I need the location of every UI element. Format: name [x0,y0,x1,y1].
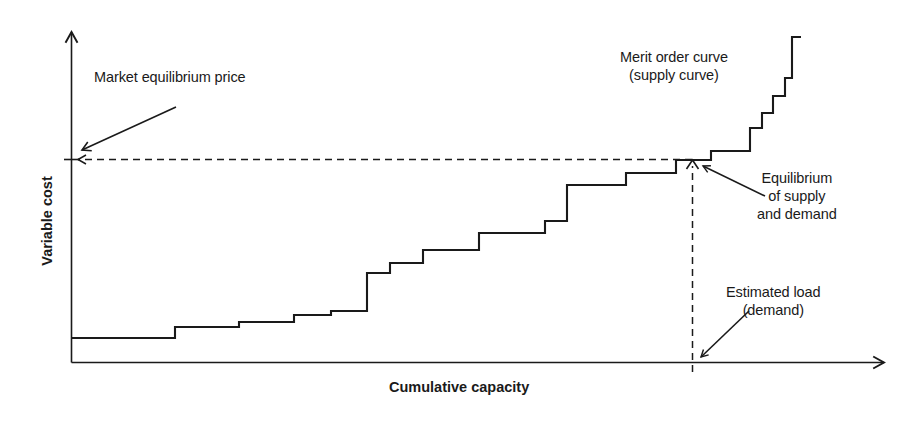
annotation-estimated-load-line-2: (demand) [726,301,821,319]
annotation-estimated-load: Estimated load (demand) [726,283,821,319]
y-axis-title: Variable cost [38,166,56,276]
annotation-merit-order-curve: Merit order curve (supply curve) [620,48,728,84]
equilibrium-annotation-leader [703,166,765,196]
annotation-merit-order-curve-line-1: Merit order curve [620,48,728,66]
annotation-market-equilibrium-price: Market equilibrium price [94,68,246,86]
annotation-equilibrium-line-1: Equilibrium [757,169,837,187]
market-equilibrium-price-leader [82,107,176,150]
merit-order-curve-figure: Market equilibrium price Merit order cur… [0,0,913,421]
x-axis-title: Cumulative capacity [389,378,529,396]
annotation-equilibrium-line-3: and demand [757,205,837,223]
annotation-estimated-load-line-1: Estimated load [726,283,821,301]
annotation-merit-order-curve-line-2: (supply curve) [620,66,728,84]
annotation-equilibrium-of-supply-and-demand: Equilibrium of supply and demand [757,169,837,223]
annotation-equilibrium-line-2: of supply [757,187,837,205]
